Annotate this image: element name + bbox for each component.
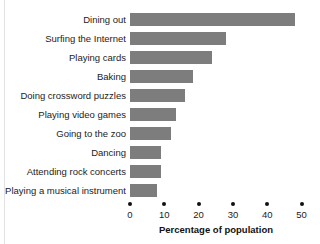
x-axis-tick-dot [231,202,235,206]
bar-category-label: Dancing [91,143,126,162]
bar [130,70,193,83]
x-axis-tick-label: 30 [218,209,248,220]
x-axis-tick-label: 50 [287,209,317,220]
x-axis: Percentage of population 01020304050 [0,200,320,244]
bar-row: Playing cards [0,48,320,67]
bar [130,13,295,26]
bar-category-label: Going to the zoo [56,124,126,143]
bar-category-label: Playing video games [38,105,126,124]
x-axis-tick-label: 20 [184,209,214,220]
x-axis-tick-dot [128,202,132,206]
bar [130,146,161,159]
x-axis-title: Percentage of population [130,224,302,235]
bar-row: Dining out [0,10,320,29]
bar-category-label: Dining out [83,10,126,29]
bar-row: Surfing the Internet [0,29,320,48]
bar-row: Playing video games [0,105,320,124]
x-axis-tick-label: 0 [115,209,145,220]
bar-category-label: Surfing the Internet [45,29,126,48]
bar [130,184,157,197]
x-axis-tick-dot [197,202,201,206]
x-axis-tick-dot [162,202,166,206]
bar-row: Doing crossword puzzles [0,86,320,105]
x-axis-tick-label: 10 [149,209,179,220]
bar-row: Attending rock concerts [0,162,320,181]
x-axis-tick-dot [300,202,304,206]
bar-row: Dancing [0,143,320,162]
x-axis-tick-label: 40 [252,209,282,220]
bar-row: Baking [0,67,320,86]
bar [130,108,176,121]
bar-row: Playing a musical instrument [0,181,320,200]
bar-chart-figure: Dining outSurfing the InternetPlaying ca… [0,0,320,244]
bar-category-label: Playing cards [69,48,126,67]
bar-row: Going to the zoo [0,124,320,143]
bar [130,32,226,45]
bar [130,127,171,140]
x-axis-tick-dot [265,202,269,206]
bar-category-label: Playing a musical instrument [5,181,126,200]
bar-category-label: Attending rock concerts [27,162,126,181]
bar [130,51,212,64]
bar-category-label: Doing crossword puzzles [20,86,126,105]
bar [130,89,185,102]
bar [130,165,161,178]
bar-category-label: Baking [97,67,126,86]
